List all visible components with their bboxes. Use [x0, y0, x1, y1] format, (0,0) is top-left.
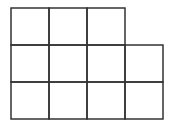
grid-cell	[49, 82, 87, 119]
grid-cell	[49, 8, 87, 45]
grid-cell	[11, 8, 49, 45]
grid-cell	[125, 45, 163, 82]
grid-cell	[87, 82, 125, 119]
grid-cell	[11, 82, 49, 119]
grid-cell	[11, 45, 49, 82]
grid-cell	[87, 8, 125, 45]
grid-cell	[49, 45, 87, 82]
square-grid-diagram	[0, 0, 172, 125]
grid-cell	[87, 45, 125, 82]
grid-cell	[125, 82, 163, 119]
